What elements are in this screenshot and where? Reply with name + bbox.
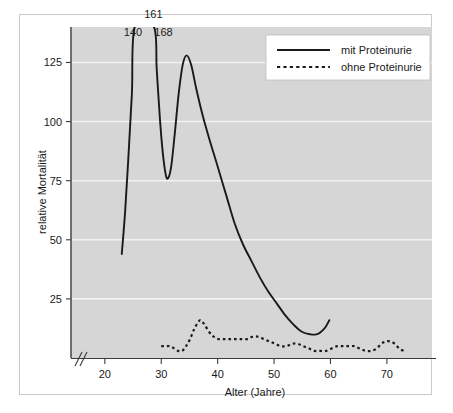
y-tick-label-50: 50 (50, 234, 62, 246)
x-tick-label-40: 40 (212, 368, 224, 380)
y-tick-label-125: 125 (44, 56, 62, 68)
annotation-168: 168 (154, 26, 172, 38)
x-tick-label-50: 50 (268, 368, 280, 380)
annotation-161: 161 (144, 8, 162, 20)
y-axis-title: relative Mortalität (36, 150, 48, 234)
x-tick-label-30: 30 (155, 368, 167, 380)
annotation-186: 186 (152, 0, 170, 1)
y-tick-label-100: 100 (44, 116, 62, 128)
x-axis-title: Alter (Jahre) (225, 386, 286, 398)
x-tick-label-60: 60 (324, 368, 336, 380)
legend-label-ohne-proteinurie: ohne Proteinurie (341, 61, 422, 73)
legend-box (266, 35, 430, 80)
annotation-140: 140 (124, 26, 142, 38)
x-axis-ticks: 203040506070 (99, 358, 393, 380)
y-tick-label-75: 75 (50, 175, 62, 187)
chart-legend: mit Proteinurie ohne Proteinurie (266, 35, 430, 80)
chart-svg: 255075100125 203040506070 186161140168 r… (0, 0, 453, 413)
figure-container: 255075100125 203040506070 186161140168 r… (0, 0, 453, 413)
legend-label-mit-proteinurie: mit Proteinurie (341, 44, 412, 56)
x-tick-label-70: 70 (381, 368, 393, 380)
y-tick-label-25: 25 (50, 293, 62, 305)
x-tick-label-20: 20 (99, 368, 111, 380)
